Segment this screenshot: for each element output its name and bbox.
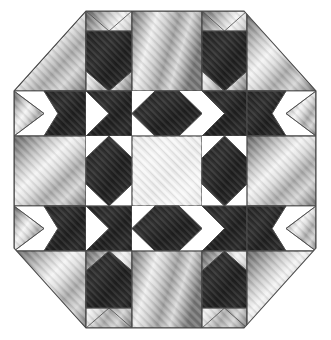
piece-bowtie-lower-left	[86, 206, 132, 251]
piece-diamond-middle-left	[86, 136, 132, 206]
quilt-block-svg	[0, 0, 331, 340]
piece-plain-square-bottom-center	[132, 251, 202, 328]
piece-center-square	[132, 136, 202, 206]
piece-arrow-flag-right-upper	[247, 91, 316, 136]
piece-arrow-flag-left-upper	[14, 91, 86, 136]
octagon-body	[14, 11, 316, 328]
quilt-block-canvas	[0, 0, 331, 340]
piece-plain-square-middle-right	[247, 136, 316, 206]
piece-notched-point-bottom-left	[86, 251, 132, 328]
piece-bowtie-upper-left	[86, 91, 132, 136]
piece-arrow-flag-left-lower	[14, 206, 86, 251]
piece-plain-square-top-center	[132, 11, 202, 91]
piece-notched-point-top-left	[86, 11, 132, 91]
piece-bowtie-upper-right	[202, 91, 247, 136]
piece-hex-bar-top-center	[132, 91, 202, 136]
piece-diamond-middle-right	[202, 136, 247, 206]
piece-bowtie-lower-right	[202, 206, 247, 251]
piece-hex-bar-bottom-center	[132, 206, 202, 251]
piece-arrow-flag-right-lower	[247, 206, 316, 251]
piece-plain-square-middle-left	[14, 136, 86, 206]
piece-notched-point-top-right	[202, 11, 247, 91]
piece-notched-point-bottom-right	[202, 251, 247, 328]
